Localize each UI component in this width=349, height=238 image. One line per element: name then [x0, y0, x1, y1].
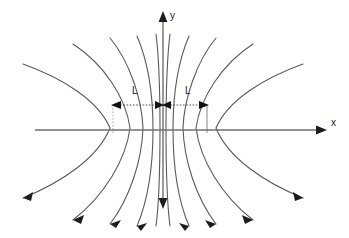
- y-axis-arrowhead-down: [159, 198, 168, 209]
- field-line-left-1-arrowhead: [23, 192, 33, 201]
- figure-canvas: [0, 0, 349, 238]
- field-line-right-3: [183, 38, 216, 224]
- x-axis-arrowhead: [316, 126, 327, 135]
- field-line-left-2: [73, 44, 130, 220]
- x-axis: [35, 126, 327, 135]
- field-lines-right-group: [166, 34, 303, 231]
- field-line-left-4-arrowhead: [137, 223, 147, 231]
- x-axis-label: x: [331, 118, 336, 128]
- field-lines-left-group: [23, 34, 160, 231]
- field-line-right-1: [216, 64, 303, 198]
- field-line-left-2-arrowhead: [73, 215, 84, 224]
- field-lines-figure: y x L L: [0, 0, 349, 238]
- dimension-label-left: L: [132, 86, 138, 96]
- field-line-left-3: [110, 38, 143, 224]
- dimension-arrowhead-left-outer: [111, 101, 121, 109]
- field-line-left-1: [23, 64, 110, 198]
- field-line-right-4: [173, 36, 189, 226]
- y-axis-arrowhead-up: [159, 11, 168, 22]
- field-line-right-2-arrowhead: [242, 215, 253, 224]
- field-line-left-4: [137, 36, 153, 226]
- field-line-right-2: [196, 44, 253, 220]
- field-line-right-1-arrowhead: [293, 192, 303, 201]
- dimension-arrowhead-right-outer: [199, 101, 209, 109]
- field-line-right-4-arrowhead: [179, 223, 189, 231]
- dimension-label-right: L: [185, 86, 191, 96]
- y-axis-label: y: [170, 11, 175, 21]
